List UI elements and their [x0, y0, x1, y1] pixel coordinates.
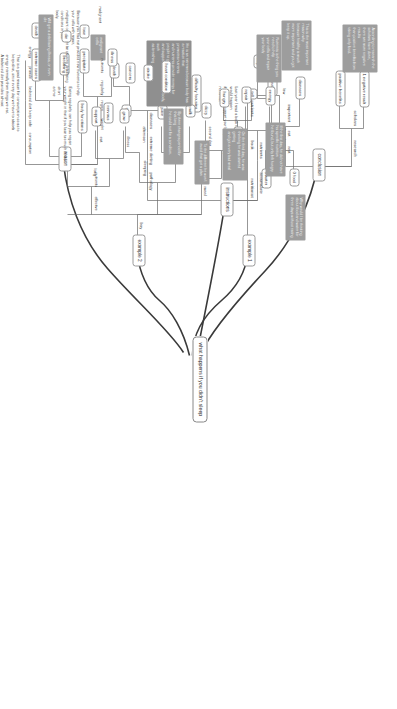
root-node[interactable]: what happens if you didn't sleep	[193, 336, 208, 422]
label-nutrients-reason: nutrients	[98, 58, 103, 73]
node-stroke[interactable]: stroke	[143, 64, 153, 81]
label-diseases: diseases	[148, 112, 153, 129]
label-sleeping: sleeping	[142, 160, 147, 176]
mindmap-inner: what happens if you didn't sleep example…	[0, 0, 397, 709]
node-die[interactable]: die	[61, 30, 71, 42]
label-book: book	[249, 140, 254, 149]
node-lose[interactable]: lose	[79, 24, 89, 38]
label-important: important	[286, 104, 291, 121]
label-provide: provide	[26, 66, 31, 78]
label-meal: meal	[202, 186, 207, 195]
node-diseases[interactable]: diseases	[295, 76, 305, 99]
note-example2-illness-a: By three changes period for that long he…	[163, 108, 183, 164]
label-energy-reason: energy	[26, 46, 31, 58]
label-eat-reason: eat	[98, 136, 103, 142]
branch-example2[interactable]: example 2	[132, 234, 145, 266]
note-example2-standalone: To the different he won't avoid that got…	[194, 140, 209, 184]
note-conclusion-top: According to research the scholars have …	[342, 24, 377, 72]
branch-conclusion[interactable]: conclusion	[312, 148, 325, 181]
label-boy: boy	[138, 222, 143, 229]
label-regain: regain	[98, 100, 103, 111]
paragraph-reason-eat: Eating regularly can help you regain you…	[50, 86, 71, 160]
label-long: long	[92, 168, 97, 176]
node-zero-food[interactable]: 0 food	[289, 168, 299, 186]
note-reason-eat: Will get a debilitating illness, or even…	[38, 14, 53, 80]
label-keep-safe: keep safe	[26, 110, 31, 126]
note-conclusion-bottom: This is the most important reason why be…	[281, 20, 311, 70]
paragraph-instructions: Because you had not provided new nutrien…	[52, 10, 79, 96]
node-nervous[interactable]: nervous	[103, 102, 113, 123]
node-positive-benefits[interactable]: positive benefits	[335, 70, 345, 106]
mindmap-canvas: what happens if you didn't sleep example…	[0, 0, 397, 709]
note-example2-meal: If the first day, he did not have his sp…	[265, 122, 285, 176]
node-grow[interactable]: grow	[119, 108, 129, 123]
label-eat: eat	[286, 130, 291, 136]
label-nutritionist: nutritionist	[249, 178, 254, 197]
note-example1: Why would I be thinking about food and w…	[285, 194, 305, 240]
node-dizzy[interactable]: dizzy	[201, 102, 211, 118]
node-hungry[interactable]: hungry	[219, 88, 229, 107]
node-body-functions[interactable]: body functions	[77, 100, 87, 133]
paragraph-reason-consumption: That is a good reason for consumption so…	[0, 54, 19, 150]
node-heart-condition[interactable]: heart condition	[161, 60, 171, 93]
label-law: law	[280, 88, 285, 94]
label-illness: illness	[124, 136, 129, 147]
label-malignant: malignant	[96, 6, 101, 22]
node-repair[interactable]: repair	[241, 86, 251, 103]
label-weight: weight	[98, 118, 103, 129]
node-precipitate[interactable]: precipitate	[79, 48, 89, 73]
label-rest: rest	[286, 146, 291, 153]
label-research: research	[352, 140, 357, 156]
label-nutrients-instr: nutrients	[258, 142, 263, 158]
label-scholars: scholars	[352, 110, 357, 126]
branch-instructions[interactable]: instructions	[220, 182, 233, 216]
label-afternoon: afternoon	[140, 126, 145, 142]
label-accumulate: accumulate	[258, 172, 263, 193]
note-instructions-nutrients: Nutrients is the thing you need to help …	[256, 34, 281, 82]
node-illness[interactable]: illness	[107, 48, 117, 66]
label-extreme-dieting: extreme dieting	[148, 136, 153, 165]
label-consumption: consumption	[26, 132, 31, 154]
label-regularly: regularly	[98, 80, 103, 95]
node-negative-result[interactable]: 1 negative result	[359, 70, 369, 107]
node-energy[interactable]: energy	[265, 86, 275, 105]
note-example2-sleep: On the third day, he was thinking he was…	[222, 128, 247, 180]
label-pathology: pathology	[148, 172, 153, 190]
branch-example1[interactable]: example 1	[242, 234, 255, 266]
node-cancers[interactable]: cancers	[125, 62, 135, 83]
note-malignant-cells: malignant cells	[90, 34, 105, 60]
label-balanced-diet: balanced diet	[26, 86, 31, 109]
label-effective: effective	[92, 196, 97, 210]
